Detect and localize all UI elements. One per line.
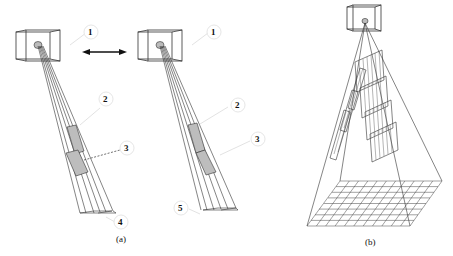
svg-text:2: 2 [235,100,240,110]
caption-b: (b) [365,237,376,247]
svg-text:3: 3 [255,134,260,144]
callout-1: 1 [84,25,98,39]
camera-cube-icon [138,30,182,61]
callout-1: 1 [207,25,221,39]
callout-4: 4 [114,215,128,229]
double-headed-arrow-icon [82,49,127,55]
callout-2: 2 [231,98,245,112]
callout-5: 5 [174,201,188,215]
callout-2: 2 [99,92,113,106]
panel-a-left-view: 1 2 3 4 [16,25,134,229]
camera-cube-icon [16,30,60,61]
voxel-slabs [330,50,398,162]
callout-3: 3 [251,132,265,146]
callout-3: 3 [120,141,134,155]
ground-grid [307,181,442,226]
diagram-canvas: 1 2 3 4 [0,0,453,256]
svg-text:1: 1 [211,27,216,37]
panel-a-right-view: 1 2 3 5 [138,25,265,215]
svg-text:5: 5 [178,203,183,213]
svg-text:2: 2 [103,94,108,104]
panel-b [307,5,442,226]
voxel-block-upper [188,123,205,153]
svg-text:3: 3 [124,143,129,153]
voxel-block-upper [67,125,84,154]
voxel-block-lower [66,150,88,176]
svg-text:4: 4 [118,217,123,227]
svg-text:1: 1 [88,27,93,37]
caption-a: (a) [116,234,126,244]
